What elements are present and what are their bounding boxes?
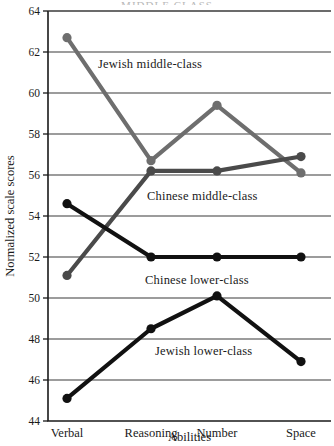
- x-category-label-space: Space: [286, 426, 316, 440]
- data-point: [146, 252, 155, 261]
- data-point: [296, 168, 305, 177]
- y-tick-label: 62: [29, 46, 41, 58]
- cropped-header-text: MIDDLE CLASS: [121, 0, 213, 11]
- y-tick-label: 58: [29, 128, 41, 140]
- data-point: [146, 156, 155, 165]
- data-point: [296, 152, 305, 161]
- series-label-2: Chinese lower-class: [145, 273, 249, 287]
- series-label-0: Jewish middle-class: [98, 57, 202, 71]
- line-chart: MIDDLE CLASS 4446485052545658606264 Verb…: [0, 0, 334, 446]
- data-point: [62, 33, 71, 42]
- y-axis-title: Normalized scale scores: [3, 155, 17, 277]
- chart-container: MIDDLE CLASS 4446485052545658606264 Verb…: [0, 0, 334, 446]
- data-point: [146, 166, 155, 175]
- x-axis-title: Abilities: [168, 430, 211, 444]
- y-tick-label: 60: [29, 87, 41, 99]
- data-point: [146, 324, 155, 333]
- data-point: [62, 394, 71, 403]
- y-tick-label: 52: [29, 251, 41, 263]
- y-tick-label: 50: [29, 292, 41, 304]
- y-tick-label: 48: [29, 333, 41, 345]
- series-label-1: Chinese middle-class: [147, 189, 258, 203]
- data-point: [212, 101, 221, 110]
- y-tick-label: 56: [29, 169, 41, 181]
- x-category-label-verbal: Verbal: [51, 426, 84, 440]
- data-point: [62, 199, 71, 208]
- data-point: [296, 252, 305, 261]
- y-tick-label: 64: [29, 5, 41, 17]
- series-label-3: Jewish lower-class: [155, 344, 252, 358]
- cropped-title-text: MIDDLE CLASS: [121, 0, 213, 11]
- data-point: [296, 357, 305, 366]
- data-point: [212, 252, 221, 261]
- y-tick-label: 44: [29, 415, 41, 427]
- y-axis-tick-labels: 4446485052545658606264: [29, 5, 41, 427]
- y-tick-label: 54: [29, 210, 41, 222]
- y-tick-label: 46: [29, 374, 41, 386]
- data-point: [212, 166, 221, 175]
- data-point: [62, 271, 71, 280]
- data-point: [212, 291, 221, 300]
